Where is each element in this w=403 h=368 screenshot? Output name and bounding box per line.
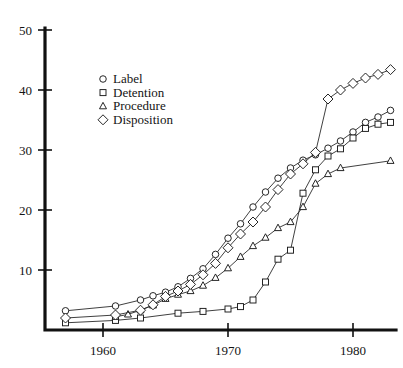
x-tick-label-1960: 1960 xyxy=(90,343,116,358)
marker-square xyxy=(388,119,394,125)
chart-legend: LabelDetentionProcedureDisposition xyxy=(98,71,173,127)
marker-circle xyxy=(275,175,282,182)
legend-marker-circle xyxy=(100,76,107,83)
marker-triangle xyxy=(262,234,269,240)
marker-triangle xyxy=(325,170,332,176)
marker-square xyxy=(300,190,306,196)
marker-square xyxy=(350,135,356,141)
marker-square xyxy=(250,297,256,303)
marker-triangle xyxy=(275,224,282,230)
data-series-group xyxy=(61,65,396,326)
series-label xyxy=(62,107,394,314)
plot-area: 1020304050196019701980 LabelDetentionPro… xyxy=(0,0,403,368)
marker-circle xyxy=(225,235,232,242)
marker-square xyxy=(313,167,319,173)
series-line-procedure xyxy=(116,161,391,317)
marker-circle xyxy=(350,129,357,136)
marker-diamond xyxy=(273,185,283,195)
axis-tick-labels: 1020304050196019701980 xyxy=(19,23,366,359)
marker-triangle xyxy=(200,282,207,288)
marker-diamond xyxy=(373,69,383,79)
marker-triangle xyxy=(237,253,244,259)
marker-circle xyxy=(212,251,219,258)
marker-square xyxy=(338,146,344,152)
marker-diamond xyxy=(323,94,333,104)
marker-circle xyxy=(337,138,344,145)
marker-square xyxy=(363,125,369,131)
x-tick-label-1970: 1970 xyxy=(215,343,241,358)
marker-square xyxy=(200,308,206,314)
legend-marker-square xyxy=(100,90,106,96)
marker-diamond xyxy=(61,313,71,323)
marker-circle xyxy=(150,293,157,300)
marker-square xyxy=(325,153,331,159)
marker-triangle xyxy=(312,180,319,186)
marker-triangle xyxy=(250,242,257,248)
marker-diamond xyxy=(136,305,146,315)
legend-label-disposition: Disposition xyxy=(113,112,173,127)
axis-ticks xyxy=(38,30,353,337)
x-tick-label-1980: 1980 xyxy=(340,343,366,358)
marker-triangle xyxy=(387,157,394,163)
axis-spine xyxy=(45,28,396,330)
y-tick-label-10: 10 xyxy=(19,263,32,278)
legend-marker-triangle xyxy=(100,102,107,108)
chart-axes xyxy=(45,28,396,330)
y-tick-label-50: 50 xyxy=(19,23,32,38)
marker-square xyxy=(275,256,281,262)
marker-circle xyxy=(250,204,257,211)
marker-square xyxy=(263,279,269,285)
marker-diamond xyxy=(361,73,371,83)
marker-triangle xyxy=(225,264,232,270)
marker-diamond xyxy=(336,85,346,95)
series-detention xyxy=(63,119,394,325)
marker-square xyxy=(175,310,181,316)
legend-entry-disposition: Disposition xyxy=(98,112,173,127)
marker-circle xyxy=(262,189,269,196)
marker-triangle xyxy=(212,274,219,280)
marker-square xyxy=(375,121,381,127)
marker-diamond xyxy=(386,65,396,75)
marker-square xyxy=(238,304,244,310)
legend-marker-diamond xyxy=(98,115,108,125)
marker-square xyxy=(138,315,144,321)
marker-circle xyxy=(325,145,332,152)
marker-circle xyxy=(137,297,144,304)
line-chart: 1020304050196019701980 LabelDetentionPro… xyxy=(0,0,403,368)
marker-circle xyxy=(387,107,394,114)
series-disposition xyxy=(61,65,396,323)
marker-circle xyxy=(112,303,119,310)
marker-circle xyxy=(237,221,244,228)
marker-square xyxy=(288,247,294,253)
marker-circle xyxy=(362,119,369,126)
marker-square xyxy=(225,306,231,312)
marker-diamond xyxy=(348,78,358,88)
y-tick-label-30: 30 xyxy=(19,143,32,158)
y-tick-label-20: 20 xyxy=(19,203,32,218)
series-line-detention xyxy=(66,122,391,322)
y-tick-label-40: 40 xyxy=(19,83,32,98)
marker-circle xyxy=(375,114,382,121)
